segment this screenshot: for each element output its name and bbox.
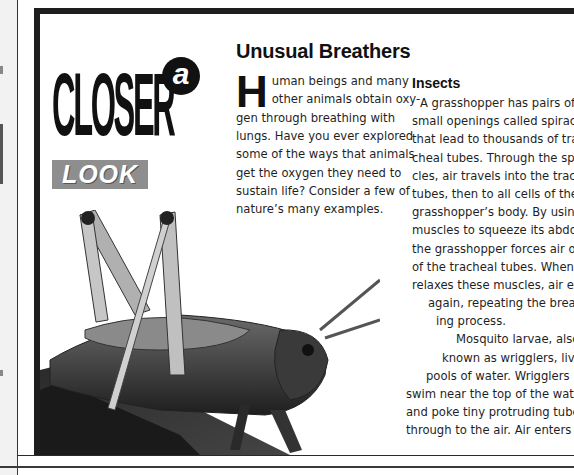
intro-line: gen through breathing with [236, 109, 402, 127]
logo-closer-text: CLOSER [52, 52, 173, 156]
body-line: relaxes these muscles, air enters [412, 276, 572, 294]
body-line: muscles to squeeze its abdomen, [412, 221, 572, 239]
body-line: of the tracheal tubes. When it [412, 258, 572, 276]
body-line: through to the air. Air enters [406, 421, 572, 439]
insects-section: Insects A grasshopper has pairs of small… [412, 74, 572, 440]
intro-line: some of the ways that animals [236, 145, 402, 163]
page-edge-tab [0, 124, 3, 184]
body-line: known as wrigglers, live in [412, 349, 572, 367]
body-line: tubes, then to all cells of the [412, 185, 572, 203]
page-edge-mark [0, 66, 3, 74]
body-line: again, repeating the breath- [412, 294, 572, 312]
body-line: swim near the top of the water [406, 385, 572, 403]
body-line: cheal tubes. Through the spira- [412, 149, 572, 167]
body-line: small openings called spiracles [412, 112, 572, 130]
logo-look-banner: LOOK [52, 160, 148, 189]
body-line: ing process. [412, 312, 572, 330]
page-divider [17, 0, 18, 455]
article-headline: Unusual Breathers [236, 40, 410, 63]
drop-cap: H [236, 75, 268, 109]
body-line: A grasshopper has pairs of [412, 94, 572, 112]
adjacent-page-edge [0, 0, 18, 475]
frame-border-bottom [17, 455, 574, 456]
intro-paragraph: H uman beings and many other animals obt… [236, 72, 402, 218]
page-edge-mark [0, 370, 3, 376]
page-bottom-rule [0, 466, 574, 468]
body-line: grasshopper’s body. By using [412, 203, 572, 221]
body-line: the grasshopper forces air out [412, 240, 572, 258]
body-line: cles, air travels into the tracheal [412, 167, 572, 185]
logo-a-badge: a [162, 57, 200, 95]
body-line: pools of water. Wrigglers [412, 367, 572, 385]
grasshopper-illustration [40, 210, 380, 455]
body-line: and poke tiny protruding tubes [406, 403, 572, 421]
section-subhead: Insects [412, 74, 572, 92]
body-line: that lead to thousands of tra- [412, 130, 572, 148]
body-line: Mosquito larvae, also [412, 330, 572, 348]
intro-line: get the oxygen they need to [236, 164, 402, 182]
frame-border-top [34, 8, 574, 14]
intro-line: lungs. Have you ever explored [236, 127, 402, 145]
intro-line: sustain life? Consider a few of [236, 182, 402, 200]
